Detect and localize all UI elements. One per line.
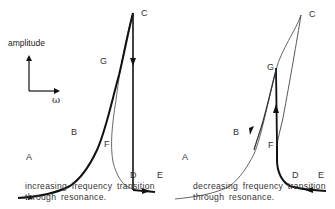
thin-branch-return [277, 15, 301, 148]
point-label-e: E [318, 170, 324, 180]
caption-line: through resonance. [25, 192, 155, 203]
point-label-g: G [267, 62, 274, 72]
point-label-c: C [141, 8, 148, 18]
arrow-up-icon [273, 104, 279, 113]
bold-path-g-to-b [254, 70, 276, 150]
caption-line: through resonance. [193, 192, 326, 203]
thin-path-rising [175, 15, 301, 199]
caption-line: increasing frequency transition [25, 181, 155, 192]
arrow-down-left-icon [249, 126, 254, 135]
y-axis-label: amplitude [8, 38, 45, 48]
point-label-b: B [233, 127, 239, 137]
thin-branch [112, 13, 133, 189]
point-label-c: C [309, 9, 316, 19]
point-label-a: A [182, 152, 188, 162]
point-label-d: D [130, 170, 137, 180]
panel-decreasing: C G B F A D E [175, 9, 326, 199]
point-label-g: G [100, 56, 107, 66]
point-label-a: A [26, 152, 32, 162]
axes-key: amplitude ω [8, 38, 60, 105]
caption-line: decreasing frequency transition [193, 181, 326, 192]
point-label-f: F [104, 139, 110, 149]
resonance-diagram: amplitude ω C G B F A D E [0, 0, 335, 209]
arrow-down-icon [130, 58, 136, 66]
panel-increasing: C G B F A D E [18, 8, 163, 200]
caption-increasing: increasing frequency transition through … [25, 181, 155, 203]
point-label-b: B [71, 127, 77, 137]
point-label-f: F [268, 140, 274, 150]
caption-decreasing: decreasing frequency transition through … [193, 181, 326, 203]
x-axis-label: ω [52, 94, 60, 105]
point-label-d: D [292, 170, 299, 180]
point-label-e: E [157, 170, 163, 180]
